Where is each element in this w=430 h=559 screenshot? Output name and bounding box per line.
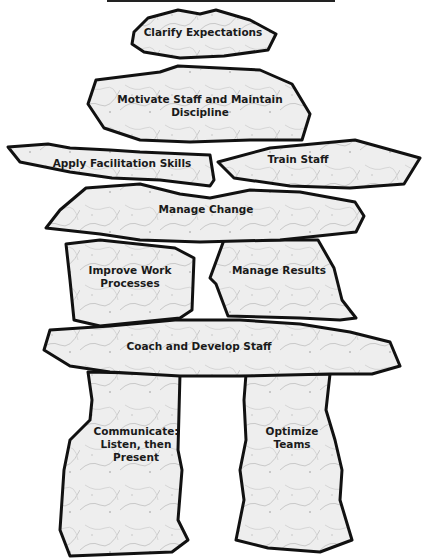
label-clarify-expectations: Clarify Expectations bbox=[144, 26, 263, 39]
label-communicate: Communicate: Listen, then Present bbox=[94, 425, 179, 464]
label-apply-facilitation: Apply Facilitation Skills bbox=[53, 157, 192, 170]
stone-results bbox=[210, 240, 356, 320]
label-manage-results: Manage Results bbox=[232, 264, 326, 277]
label-optimize-teams: Optimize Teams bbox=[266, 425, 319, 451]
label-motivate-staff: Motivate Staff and Maintain Discipline bbox=[117, 93, 282, 119]
label-manage-change: Manage Change bbox=[159, 203, 254, 216]
stone-right-leg bbox=[236, 374, 352, 552]
stone-left-leg bbox=[60, 372, 188, 556]
label-train-staff: Train Staff bbox=[267, 153, 328, 166]
inukshuk-diagram bbox=[0, 0, 430, 559]
label-coach-develop: Coach and Develop Staff bbox=[126, 340, 271, 353]
label-improve-work: Improve Work Processes bbox=[89, 264, 172, 290]
